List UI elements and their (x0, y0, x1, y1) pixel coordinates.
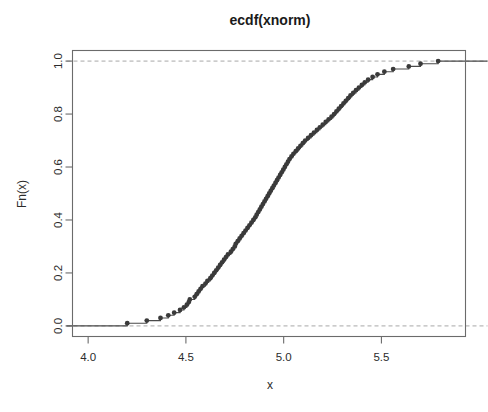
y-axis-label: Fn(x) (15, 180, 29, 208)
ecdf-point (375, 72, 380, 77)
y-tick-label-1.0: 1.0 (52, 53, 64, 69)
ecdf-point (178, 308, 183, 313)
x-tick-label-4.5: 4.5 (178, 351, 194, 363)
ecdf-point (418, 61, 423, 66)
ecdf-point (406, 64, 411, 69)
figure-background (0, 0, 488, 412)
ecdf-point (144, 318, 149, 323)
x-tick-label-4.0: 4.0 (80, 351, 96, 363)
ecdf-point (158, 316, 163, 321)
chart-title: ecdf(xnorm) (230, 12, 311, 28)
ecdf-point (382, 69, 387, 74)
ecdf-point (125, 321, 130, 326)
y-tick-label-0.8: 0.8 (53, 106, 65, 122)
x-axis-label: x (267, 378, 273, 392)
ecdf-point (366, 77, 371, 82)
ecdf-plot-figure: ecdf(xnorm) Fn(x) x 4.04.55.05.5 0.00.20… (0, 0, 488, 412)
y-tick-label-0.4: 0.4 (53, 211, 65, 228)
ecdf-point (187, 297, 192, 302)
y-tick-label-0.2: 0.2 (53, 265, 65, 281)
x-tick-label-5.0: 5.0 (276, 351, 292, 363)
chart-canvas: ecdf(xnorm) Fn(x) x 4.04.55.05.5 0.00.20… (0, 0, 488, 412)
y-tick-label-0.0: 0.0 (53, 318, 65, 334)
ecdf-point (391, 67, 396, 72)
x-tick-label-5.5: 5.5 (373, 351, 389, 363)
ecdf-point (370, 75, 375, 80)
ecdf-point (172, 310, 177, 315)
ecdf-point (166, 313, 171, 318)
ecdf-point (436, 59, 441, 64)
y-tick-label-0.6: 0.6 (53, 159, 65, 175)
